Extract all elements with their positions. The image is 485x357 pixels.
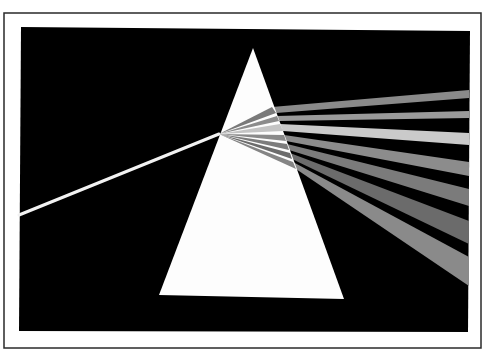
prism-artwork <box>0 0 485 357</box>
prism-illustration <box>0 0 485 357</box>
